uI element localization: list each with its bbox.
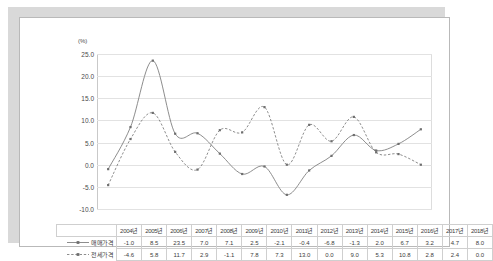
table-cell-value: 2.9 — [192, 249, 217, 261]
y-axis-tick-labels: 25.020.015.010.05.00.0-5.0-10.0 — [38, 54, 94, 209]
y-axis-tick-label: 5.0 — [42, 139, 94, 146]
legend-label: 매매가격 — [91, 238, 114, 247]
table-header-year: 2012년 — [317, 225, 342, 237]
data-point-marker — [219, 129, 221, 131]
data-point-marker — [174, 133, 176, 135]
series-line-2 — [108, 106, 421, 185]
table-cell-value: 4.7 — [442, 237, 467, 249]
table-cell-value: 0.0 — [467, 249, 492, 261]
table-row: 매매가격-1.08.523.57.07.12.5-2.1-0.4-6.8-1.3… — [57, 237, 493, 249]
chart-canvas: (%) 25.020.015.010.05.00.0-5.0-10.0 2004… — [38, 34, 458, 252]
table-cell-value: -6.8 — [317, 237, 342, 249]
data-point-marker — [263, 165, 265, 167]
data-point-marker — [420, 164, 422, 166]
table-cell-value: 7.8 — [242, 249, 267, 261]
data-point-marker — [241, 173, 243, 175]
table-cell-value: 2.4 — [442, 249, 467, 261]
table-cell-value: 5.3 — [367, 249, 392, 261]
table-header-year: 2018년 — [467, 225, 492, 237]
table-header-year: 2015년 — [392, 225, 417, 237]
table-cell-value: -1.3 — [342, 237, 367, 249]
table-cell-value: 2.5 — [242, 237, 267, 249]
table-cell-value: 13.0 — [292, 249, 317, 261]
series-line-1 — [108, 61, 421, 195]
data-point-marker — [397, 153, 399, 155]
data-point-marker — [353, 134, 355, 136]
data-point-marker — [308, 169, 310, 171]
table-cell-value: 0.0 — [317, 249, 342, 261]
table-header-year: 2004년 — [117, 225, 142, 237]
y-axis-tick-label: -10.0 — [42, 206, 94, 213]
data-point-marker — [152, 112, 154, 114]
table-cell-value: -1.1 — [217, 249, 242, 261]
table-cell-value: 23.5 — [167, 237, 192, 249]
data-point-marker — [397, 143, 399, 145]
table-header-year: 2007년 — [192, 225, 217, 237]
table-header-row: 2004년2005년2006년2007년2008년2009년2010년2011년… — [57, 225, 493, 237]
chart-inner-panel: (%) 25.020.015.010.05.00.0-5.0-10.0 2004… — [19, 17, 450, 247]
series-lines-layer — [97, 54, 432, 209]
table-corner-cell — [57, 225, 117, 237]
y-axis-tick-label: 10.0 — [42, 117, 94, 124]
table-header-year: 2014년 — [367, 225, 392, 237]
table-cell-value: 5.8 — [142, 249, 167, 261]
series-1 — [107, 60, 422, 196]
legend-label: 전세가격 — [91, 250, 114, 259]
data-point-marker — [107, 168, 109, 170]
table-cell-value: 7.3 — [267, 249, 292, 261]
table-header-year: 2013년 — [342, 225, 367, 237]
table-cell-value: 7.1 — [217, 237, 242, 249]
data-point-marker — [174, 151, 176, 153]
table-cell-value: 6.7 — [392, 237, 417, 249]
table-cell-value: 8.0 — [467, 237, 492, 249]
table-header-year: 2005년 — [142, 225, 167, 237]
table-row: 전세가격-4.65.811.72.9-1.17.87.313.00.09.05.… — [57, 249, 493, 261]
table-header-year: 2017년 — [442, 225, 467, 237]
table-cell-value: 10.8 — [392, 249, 417, 261]
table-cell-value: -0.4 — [292, 237, 317, 249]
data-point-marker — [129, 126, 131, 128]
y-axis-tick-label: 0.0 — [42, 161, 94, 168]
data-point-marker — [330, 140, 332, 142]
table-cell-value: 3.2 — [417, 237, 442, 249]
data-point-marker — [241, 131, 243, 133]
table-header-year: 2008년 — [217, 225, 242, 237]
table-cell-value: -2.1 — [267, 237, 292, 249]
table-header-year: 2010년 — [267, 225, 292, 237]
data-point-marker — [263, 106, 265, 108]
table-cell-value: 8.5 — [142, 237, 167, 249]
data-point-marker — [353, 116, 355, 118]
data-point-marker — [330, 155, 332, 157]
chart-data-table: 2004년2005년2006년2007년2008년2009년2010년2011년… — [56, 224, 493, 261]
y-axis-tick-label: -5.0 — [42, 183, 94, 190]
table-header-year: 2011년 — [292, 225, 317, 237]
table-body: 매매가격-1.08.523.57.07.12.5-2.1-0.4-6.8-1.3… — [57, 237, 493, 261]
data-point-marker — [286, 194, 288, 196]
table-cell-value: 2.8 — [417, 249, 442, 261]
table-cell-value: 7.0 — [192, 237, 217, 249]
data-point-marker — [196, 132, 198, 134]
legend-item-2[interactable]: 전세가격 — [57, 249, 117, 261]
data-point-marker — [375, 151, 377, 153]
data-point-marker — [196, 168, 198, 170]
table-header-year: 2006년 — [167, 225, 192, 237]
y-axis-tick-label: 20.0 — [42, 73, 94, 80]
data-point-marker — [308, 124, 310, 126]
table-cell-value: 2.0 — [367, 237, 392, 249]
data-point-marker — [286, 164, 288, 166]
data-point-marker — [152, 60, 154, 62]
table-cell-value: 9.0 — [342, 249, 367, 261]
y-axis-tick-label: 15.0 — [42, 95, 94, 102]
table-cell-value: 11.7 — [167, 249, 192, 261]
legend-line-swatch-icon — [67, 251, 89, 258]
table-cell-value: -4.6 — [117, 249, 142, 261]
legend-item-1[interactable]: 매매가격 — [57, 237, 117, 249]
series-2 — [107, 106, 422, 186]
legend-line-swatch-icon — [67, 239, 89, 246]
data-point-marker — [219, 153, 221, 155]
data-point-marker — [129, 138, 131, 140]
chart-outer-frame: (%) 25.020.015.010.05.00.0-5.0-10.0 2004… — [8, 7, 445, 243]
y-axis-tick-label: 25.0 — [42, 51, 94, 58]
gridline — [97, 209, 432, 210]
data-point-marker — [107, 184, 109, 186]
